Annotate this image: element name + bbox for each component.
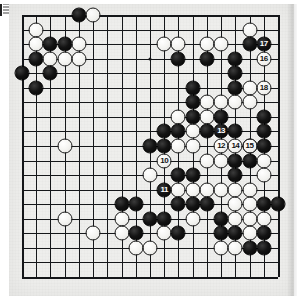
white-stone[interactable]	[114, 226, 129, 241]
white-stone[interactable]	[71, 51, 86, 66]
black-stone[interactable]	[256, 197, 271, 212]
white-stone[interactable]	[171, 37, 186, 52]
white-stone[interactable]	[29, 37, 44, 52]
black-stone[interactable]	[128, 197, 143, 212]
white-stone[interactable]	[228, 240, 243, 255]
white-stone[interactable]	[242, 95, 257, 110]
numbered-stone[interactable]: 16	[256, 51, 271, 66]
black-stone[interactable]	[57, 37, 72, 52]
black-stone[interactable]	[228, 124, 243, 139]
white-stone[interactable]	[242, 197, 257, 212]
white-stone[interactable]	[214, 240, 229, 255]
black-stone[interactable]	[114, 197, 129, 212]
white-stone[interactable]	[214, 182, 229, 197]
numbered-stone[interactable]: 10	[157, 153, 172, 168]
white-stone[interactable]	[57, 139, 72, 154]
white-stone[interactable]	[199, 109, 214, 124]
white-stone[interactable]	[199, 95, 214, 110]
white-stone[interactable]	[242, 211, 257, 226]
black-stone[interactable]	[271, 197, 286, 212]
white-stone[interactable]	[29, 22, 44, 37]
white-stone[interactable]	[185, 211, 200, 226]
white-stone[interactable]	[143, 168, 158, 183]
white-stone[interactable]	[214, 37, 229, 52]
white-stone[interactable]	[228, 197, 243, 212]
black-stone[interactable]	[185, 168, 200, 183]
white-stone[interactable]	[214, 95, 229, 110]
black-stone[interactable]	[199, 197, 214, 212]
black-stone[interactable]	[15, 66, 30, 81]
white-stone[interactable]	[185, 124, 200, 139]
black-stone[interactable]	[171, 168, 186, 183]
black-stone[interactable]	[199, 51, 214, 66]
black-stone[interactable]	[185, 95, 200, 110]
black-stone[interactable]	[242, 153, 257, 168]
white-stone[interactable]	[199, 153, 214, 168]
white-stone[interactable]	[199, 37, 214, 52]
white-stone[interactable]	[256, 153, 271, 168]
black-stone[interactable]	[214, 211, 229, 226]
black-stone[interactable]	[228, 226, 243, 241]
white-stone[interactable]	[86, 226, 101, 241]
black-stone[interactable]	[43, 66, 58, 81]
black-stone[interactable]	[242, 37, 257, 52]
numbered-stone[interactable]: 12	[214, 139, 229, 154]
black-stone[interactable]	[171, 124, 186, 139]
black-stone[interactable]	[228, 80, 243, 95]
black-stone[interactable]	[256, 109, 271, 124]
black-stone[interactable]	[185, 80, 200, 95]
black-stone[interactable]	[128, 226, 143, 241]
black-stone[interactable]	[228, 153, 243, 168]
white-stone[interactable]	[71, 37, 86, 52]
numbered-stone[interactable]: 17	[256, 37, 271, 52]
white-stone[interactable]	[143, 240, 158, 255]
black-stone[interactable]	[242, 240, 257, 255]
black-stone[interactable]	[171, 226, 186, 241]
white-stone[interactable]	[242, 22, 257, 37]
black-stone[interactable]	[171, 197, 186, 212]
white-stone[interactable]	[199, 182, 214, 197]
black-stone[interactable]	[29, 80, 44, 95]
black-stone[interactable]	[256, 139, 271, 154]
white-stone[interactable]	[43, 51, 58, 66]
numbered-stone[interactable]: 18	[256, 80, 271, 95]
black-stone[interactable]	[228, 66, 243, 81]
white-stone[interactable]	[57, 51, 72, 66]
white-stone[interactable]	[228, 95, 243, 110]
white-stone[interactable]	[185, 139, 200, 154]
white-stone[interactable]	[228, 182, 243, 197]
black-stone[interactable]	[143, 211, 158, 226]
white-stone[interactable]	[256, 168, 271, 183]
white-stone[interactable]	[171, 182, 186, 197]
numbered-stone[interactable]: 14	[228, 139, 243, 154]
white-stone[interactable]	[242, 182, 257, 197]
black-stone[interactable]	[157, 124, 172, 139]
white-stone[interactable]	[157, 37, 172, 52]
white-stone[interactable]	[171, 139, 186, 154]
black-stone[interactable]	[185, 197, 200, 212]
black-stone[interactable]	[143, 139, 158, 154]
numbered-stone[interactable]: 15	[242, 139, 257, 154]
numbered-stone[interactable]: 13	[214, 124, 229, 139]
white-stone[interactable]	[171, 109, 186, 124]
white-stone[interactable]	[185, 182, 200, 197]
black-stone[interactable]	[157, 139, 172, 154]
black-stone[interactable]	[228, 168, 243, 183]
white-stone[interactable]	[242, 80, 257, 95]
go-board[interactable]: 101112131415161718	[22, 15, 278, 277]
black-stone[interactable]	[256, 124, 271, 139]
black-stone[interactable]	[256, 226, 271, 241]
black-stone[interactable]	[29, 51, 44, 66]
black-stone[interactable]	[214, 109, 229, 124]
black-stone[interactable]	[214, 226, 229, 241]
white-stone[interactable]	[114, 211, 129, 226]
white-stone[interactable]	[242, 226, 257, 241]
black-stone[interactable]	[185, 109, 200, 124]
black-stone[interactable]	[256, 240, 271, 255]
black-stone[interactable]	[71, 8, 86, 23]
white-stone[interactable]	[256, 211, 271, 226]
white-stone[interactable]	[128, 240, 143, 255]
black-stone[interactable]	[157, 211, 172, 226]
white-stone[interactable]	[157, 226, 172, 241]
white-stone[interactable]	[86, 8, 101, 23]
